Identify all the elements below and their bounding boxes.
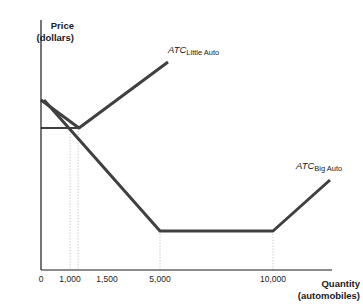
y-axis-title-line-1: Price (2, 20, 74, 32)
gridlines (70, 128, 273, 270)
curve-label-little-auto-main: ATC (168, 44, 186, 55)
x-tick-label-0: 0 (39, 274, 44, 284)
x-axis-title: Quantity (automobiles) (240, 278, 360, 302)
curve-label-big-auto: ATCBig Auto (296, 160, 342, 171)
curve-atc-big-auto (44, 100, 330, 231)
curve-label-little-auto-sub: Little Auto (186, 48, 219, 57)
curve-label-little-auto: ATCLittle Auto (168, 44, 219, 55)
chart-figure: Price (dollars) Quantity (automobiles) 0… (0, 0, 363, 308)
y-axis-title: Price (dollars) (2, 20, 74, 44)
curve-label-big-auto-sub: Big Auto (314, 164, 342, 173)
x-tick-label-1500: 1,500 (96, 274, 117, 284)
x-tick-label-5000: 5,000 (149, 274, 170, 284)
x-axis-title-line-2: (automobiles) (240, 290, 360, 302)
x-tick-label-10000: 10,000 (260, 274, 286, 284)
x-axis-title-line-1: Quantity (240, 278, 360, 290)
curve-label-big-auto-main: ATC (296, 160, 314, 171)
y-axis-title-line-2: (dollars) (2, 32, 74, 44)
x-tick-label-1000: 1,000 (59, 274, 80, 284)
